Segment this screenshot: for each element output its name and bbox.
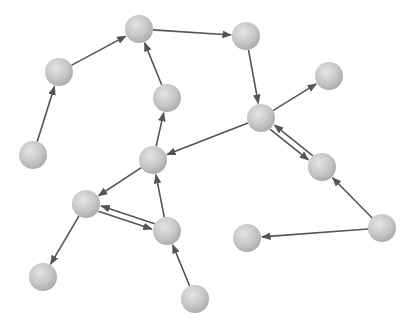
graph-node-n1[interactable] (19, 141, 47, 169)
edge-n4-to-n6 (249, 50, 259, 103)
graph-node-n5[interactable] (153, 84, 181, 112)
graph-node-n14[interactable] (29, 263, 57, 291)
graph-node-n8[interactable] (139, 146, 167, 174)
graph-node-n12[interactable] (368, 214, 396, 242)
edge-n12-to-n9 (333, 178, 373, 218)
edge-n9-to-n6 (275, 125, 313, 156)
edge-n6-to-n9 (270, 129, 308, 160)
node-layer (19, 15, 396, 313)
graph-node-n15[interactable] (181, 285, 209, 313)
edge-n8-to-n10 (99, 168, 142, 196)
graph-node-n3[interactable] (125, 15, 153, 43)
edge-n5-to-n3 (145, 43, 162, 85)
edge-n6-to-n7 (273, 84, 316, 111)
edge-n2-to-n3 (71, 36, 125, 65)
edge-n1-to-n2 (37, 86, 54, 141)
graph-node-n4[interactable] (232, 22, 260, 50)
graph-canvas (0, 0, 414, 326)
graph-node-n7[interactable] (315, 62, 343, 90)
graph-node-n2[interactable] (45, 58, 73, 86)
edge-n12-to-n13 (262, 229, 368, 237)
graph-node-n6[interactable] (247, 104, 275, 132)
edge-n15-to-n11 (173, 245, 190, 286)
edge-n10-to-n14 (51, 216, 79, 264)
edge-n8-to-n5 (156, 113, 164, 147)
edge-n11-to-n8 (156, 175, 164, 218)
graph-svg (0, 0, 414, 326)
graph-node-n9[interactable] (308, 153, 336, 181)
graph-node-n13[interactable] (233, 224, 261, 252)
graph-node-n11[interactable] (153, 217, 181, 245)
edge-n3-to-n4 (153, 30, 231, 35)
edge-n6-to-n8 (167, 123, 248, 154)
graph-node-n10[interactable] (72, 190, 100, 218)
